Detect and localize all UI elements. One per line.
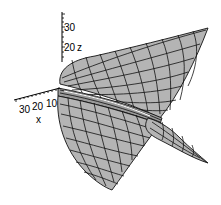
x-tick-10: 10: [46, 98, 58, 109]
surface-plot: 30 20 z 30 20 10 x: [0, 0, 221, 205]
x-tick-30: 30: [19, 104, 31, 115]
z-tick-20: 20: [64, 42, 76, 53]
x-axis: 30 20 10 x: [14, 88, 60, 125]
x-tick-20: 20: [32, 101, 44, 112]
x-axis-label: x: [36, 114, 41, 125]
lower-right-lobe-surface: [146, 118, 208, 163]
z-axis-label: z: [77, 42, 82, 53]
z-axis: 30 20 z: [62, 12, 82, 62]
z-tick-30: 30: [64, 22, 76, 33]
